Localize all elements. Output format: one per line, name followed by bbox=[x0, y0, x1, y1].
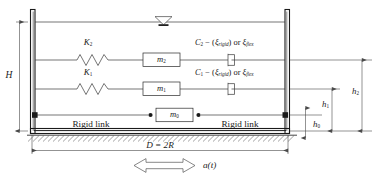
label-h1: h1 bbox=[322, 99, 329, 109]
label-diameter: D = 2R bbox=[145, 140, 174, 150]
label-spring-k1: K1 bbox=[83, 67, 93, 77]
joint-dot-left-m0 bbox=[148, 113, 152, 117]
tank-base-slab bbox=[31, 129, 290, 134]
coil-spring-icon-k1 bbox=[73, 84, 113, 95]
diagram-canvas: H K2 K1 m2 m1 m0 C2 − (ξrigid) or ξflex … bbox=[0, 0, 379, 179]
label-damper-c2: C2 − (ξrigid) or ξflex bbox=[195, 38, 254, 47]
dashpot-damper-icon-c2 bbox=[215, 54, 248, 66]
dashpot-damper-icon-c1 bbox=[215, 83, 248, 95]
tank-model-diagram: H K2 K1 m2 m1 m0 C2 − (ξrigid) or ξflex … bbox=[0, 0, 379, 179]
label-spring-k2: K2 bbox=[83, 37, 93, 47]
dimension-H bbox=[16, 22, 28, 131]
water-level-triangle-icon bbox=[155, 17, 172, 26]
label-ground-acceleration: a(t) bbox=[203, 160, 216, 170]
label-h0: h0 bbox=[313, 119, 320, 129]
label-h2: h2 bbox=[352, 86, 359, 96]
support-node-right bbox=[283, 112, 289, 118]
label-height-H: H bbox=[5, 70, 14, 80]
dimension-h2 bbox=[290, 60, 372, 131]
double-headed-arrow-icon bbox=[134, 159, 195, 173]
label-rigid-link-right: Rigid link bbox=[221, 119, 258, 129]
coil-spring-icon-k2 bbox=[73, 55, 113, 66]
label-damper-c1: C1 − (ξrigid) or ξflex bbox=[195, 67, 254, 76]
joint-dot-right-m0 bbox=[196, 113, 200, 117]
label-rigid-link-left: Rigid link bbox=[72, 119, 109, 129]
support-node-left bbox=[32, 112, 38, 118]
